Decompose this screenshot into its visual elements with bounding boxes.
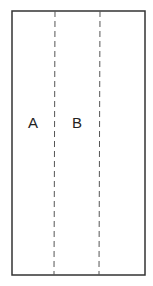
label-a: A xyxy=(28,114,38,131)
folding-diagram: A B xyxy=(0,0,153,286)
label-b: B xyxy=(72,114,82,131)
paper-outline xyxy=(12,11,145,275)
